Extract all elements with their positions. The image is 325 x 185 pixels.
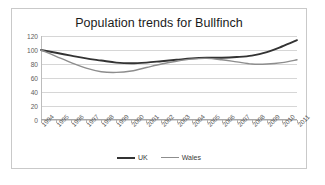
legend-swatch-uk bbox=[117, 157, 135, 159]
y-tick-label: 100 bbox=[14, 47, 38, 54]
series-lines bbox=[41, 36, 297, 120]
series-line-uk bbox=[41, 40, 297, 63]
chart-card: Population trends for Bullfinch 02040608… bbox=[11, 8, 307, 169]
legend-swatch-wales bbox=[161, 157, 179, 158]
y-tick-label: 40 bbox=[14, 89, 38, 96]
legend-label-uk: UK bbox=[138, 154, 148, 161]
y-tick-label: 20 bbox=[14, 103, 38, 110]
x-tick-label: 2011 bbox=[296, 113, 311, 128]
legend-label-wales: Wales bbox=[182, 154, 201, 161]
legend-item-wales[interactable]: Wales bbox=[161, 154, 201, 161]
y-tick-label: 0 bbox=[14, 117, 38, 124]
plot-area bbox=[41, 36, 297, 120]
y-tick-label: 80 bbox=[14, 61, 38, 68]
y-tick-label: 120 bbox=[14, 33, 38, 40]
x-axis-labels: 1994199519961997199819992000200120022003… bbox=[41, 123, 297, 149]
chart-title: Population trends for Bullfinch bbox=[12, 16, 306, 30]
y-axis-labels: 020406080100120 bbox=[12, 36, 38, 120]
legend-item-uk[interactable]: UK bbox=[117, 154, 148, 161]
y-tick-label: 60 bbox=[14, 75, 38, 82]
chart-legend: UKWales bbox=[12, 154, 306, 161]
